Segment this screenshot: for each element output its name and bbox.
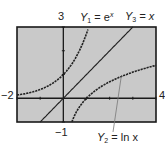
y1-equation-label: Y1 = ex <box>80 11 113 24</box>
ymin-label: −1 <box>55 127 68 138</box>
xmax-label: 4 <box>159 90 165 101</box>
y2-equation-label: Y2 = ln x <box>97 132 138 144</box>
y3-equation-label: Y3 = x <box>125 11 154 23</box>
ymax-label: 3 <box>58 11 64 22</box>
xmin-label: −2 <box>1 90 14 101</box>
